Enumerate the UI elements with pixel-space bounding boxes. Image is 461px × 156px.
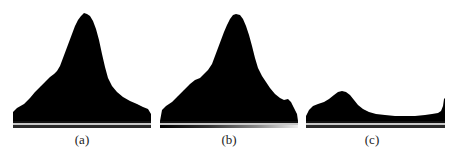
histogram-c-plot [0,0,461,125]
histogram-panel-c: (c) [0,0,461,156]
histogram-c-bar-dark [306,125,445,128]
histogram-c-area [306,91,445,121]
caption-c: (c) [352,132,392,148]
